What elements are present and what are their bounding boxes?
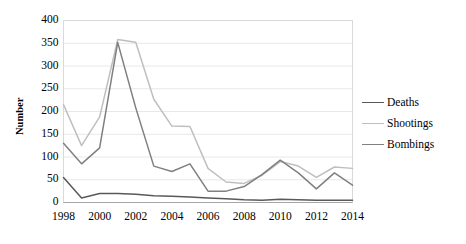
legend-item-shootings[interactable]: Shootings (362, 113, 462, 134)
x-tick-label: 2014 (333, 210, 373, 222)
line-chart: Number 400350300250200150100500 19982000… (0, 0, 466, 244)
legend-swatch-shootings (362, 123, 384, 124)
x-tick-label: 2010 (260, 210, 300, 222)
legend-swatch-bombings (362, 144, 384, 145)
y-tick-label: 250 (41, 81, 58, 93)
y-tick-label: 200 (41, 104, 58, 116)
data-series-layer (64, 40, 353, 201)
y-tick-label: 300 (41, 59, 58, 71)
series-line-deaths (64, 177, 353, 200)
x-tick-label: 2000 (80, 210, 120, 222)
legend-item-deaths[interactable]: Deaths (362, 92, 462, 113)
x-tick-label: 2004 (152, 210, 192, 222)
x-tick-label: 2002 (116, 210, 156, 222)
x-tick-label: 2008 (224, 210, 264, 222)
y-tick-label: 150 (41, 127, 58, 139)
gridlines (64, 21, 353, 203)
x-tick-label: 1998 (44, 210, 84, 222)
y-tick-label: 50 (47, 172, 59, 184)
legend-label: Shootings (387, 118, 433, 129)
chart-legend: DeathsShootingsBombings (362, 92, 462, 155)
y-tick-label: 350 (41, 36, 58, 48)
y-tick-label: 400 (41, 13, 58, 25)
legend-label: Bombings (387, 139, 434, 150)
legend-item-bombings[interactable]: Bombings (362, 134, 462, 155)
legend-label: Deaths (387, 97, 419, 108)
x-tick-label: 2006 (188, 210, 228, 222)
y-axis-title: Number (14, 98, 25, 135)
y-tick-label: 0 (53, 195, 59, 207)
legend-swatch-deaths (362, 102, 384, 103)
x-tick-label: 2012 (296, 210, 336, 222)
y-tick-label: 100 (41, 150, 58, 162)
